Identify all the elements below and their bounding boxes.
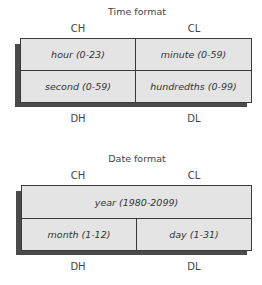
cell-year: year (1980-2099) [21,185,252,219]
cell-minute: minute (0-59) [135,38,252,71]
date-label-dl: DL [187,261,200,272]
time-format-title: Time format [108,6,166,17]
date-format-title: Date format [108,153,165,164]
time-label-dh: DH [70,113,85,124]
time-label-cl: CL [188,23,201,34]
date-label-ch: CH [71,170,86,181]
time-label-ch: CH [71,23,86,34]
cell-month: month (1-12) [21,218,137,251]
date-label-cl: CL [188,170,201,181]
cell-day: day (1-31) [136,218,252,251]
cell-hour: hour (0-23) [20,38,136,71]
cell-second: second (0-59) [20,70,136,103]
time-label-dl: DL [187,113,200,124]
date-label-dh: DH [70,261,85,272]
cell-hundredths: hundredths (0-99) [135,70,252,103]
